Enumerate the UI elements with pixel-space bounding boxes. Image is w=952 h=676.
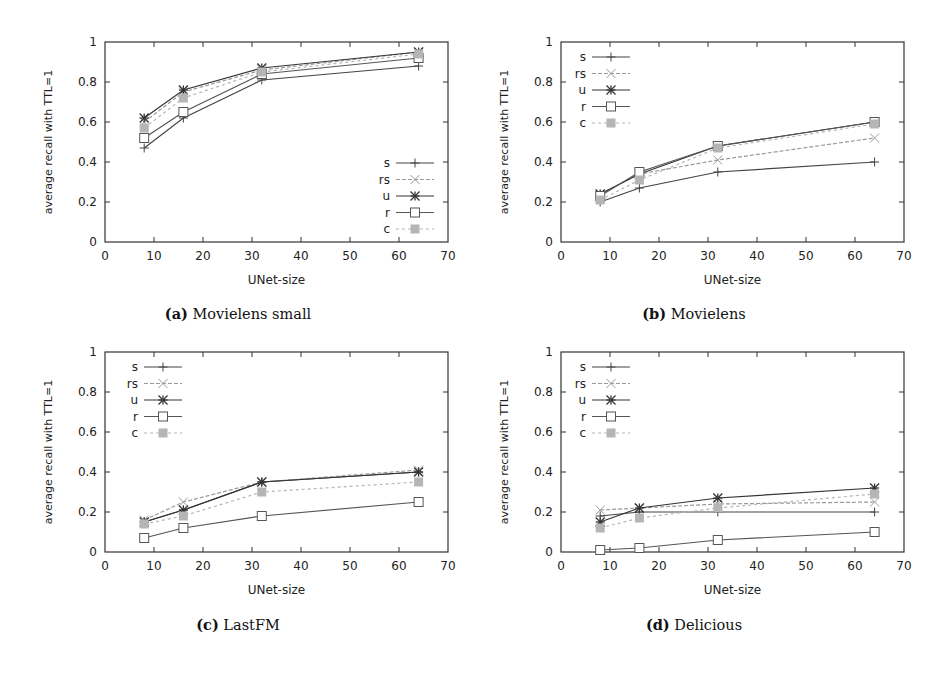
y-axis-label: average recall with TTL=1 — [42, 380, 55, 524]
x-tick-label: 30 — [244, 249, 259, 263]
x-tick-label: 30 — [244, 559, 259, 573]
legend: srsurc — [127, 360, 182, 440]
caption-tag-d: (d) — [646, 616, 670, 633]
x-tick-label: 60 — [391, 559, 406, 573]
y-tick-label: 0.4 — [534, 155, 553, 169]
x-tick-label: 10 — [602, 559, 617, 573]
chart-panel-a: 01020304050607000.20.40.60.81UNet-sizeav… — [0, 0, 476, 338]
x-tick-label: 70 — [896, 249, 911, 263]
legend-label-rs: rs — [575, 67, 586, 81]
legend-label-s: s — [580, 360, 586, 374]
x-tick-label: 10 — [146, 559, 161, 573]
x-axis-label: UNet-size — [704, 583, 761, 597]
y-tick-label: 1 — [545, 345, 553, 359]
y-tick-label: 0.6 — [534, 425, 553, 439]
y-axis-label: average recall with TTL=1 — [498, 380, 511, 524]
x-tick-label: 70 — [440, 559, 455, 573]
y-tick-label: 0.8 — [78, 385, 97, 399]
x-tick-label: 0 — [557, 559, 565, 573]
legend-label-r: r — [581, 100, 586, 114]
y-tick-label: 0 — [545, 545, 553, 559]
legend-label-r: r — [133, 410, 138, 424]
series-r — [596, 528, 879, 555]
caption-c: (c) LastFM — [0, 616, 476, 633]
y-tick-label: 0 — [545, 235, 553, 249]
y-tick-label: 0.2 — [534, 505, 553, 519]
x-tick-label: 40 — [749, 559, 764, 573]
series-c — [596, 120, 879, 205]
caption-d: (d) Delicious — [456, 616, 932, 633]
legend-label-s: s — [132, 360, 138, 374]
x-tick-label: 60 — [847, 559, 862, 573]
x-tick-label: 30 — [700, 249, 715, 263]
x-tick-label: 50 — [798, 249, 813, 263]
y-tick-label: 0.8 — [534, 75, 553, 89]
legend: srsurc — [575, 50, 630, 130]
chart-svg-a: 01020304050607000.20.40.60.81UNet-sizeav… — [0, 0, 476, 300]
series-c — [596, 490, 879, 533]
chart-panel-d: 01020304050607000.20.40.60.81UNet-sizeav… — [456, 310, 932, 648]
x-tick-label: 10 — [146, 249, 161, 263]
x-tick-label: 20 — [651, 559, 666, 573]
x-tick-label: 70 — [440, 249, 455, 263]
x-tick-label: 40 — [293, 559, 308, 573]
y-axis-label: average recall with TTL=1 — [42, 70, 55, 214]
caption-title-d: Delicious — [674, 617, 742, 633]
caption-tag-c: (c) — [196, 616, 219, 633]
chart-svg-d: 01020304050607000.20.40.60.81UNet-sizeav… — [456, 310, 932, 610]
legend-label-rs: rs — [127, 377, 138, 391]
x-tick-label: 30 — [700, 559, 715, 573]
chart-panel-c: 01020304050607000.20.40.60.81UNet-sizeav… — [0, 310, 476, 648]
x-tick-label: 0 — [557, 249, 565, 263]
chart-panel-b: 01020304050607000.20.40.60.81UNet-sizeav… — [456, 0, 932, 338]
y-tick-label: 1 — [89, 345, 97, 359]
legend: srsurc — [575, 360, 630, 440]
legend-label-r: r — [385, 206, 390, 220]
x-tick-label: 50 — [342, 249, 357, 263]
x-axis-label: UNet-size — [248, 273, 305, 287]
x-tick-label: 40 — [293, 249, 308, 263]
y-axis-label: average recall with TTL=1 — [498, 70, 511, 214]
legend: srsurc — [379, 156, 434, 236]
y-tick-label: 0.8 — [534, 385, 553, 399]
y-tick-label: 1 — [545, 35, 553, 49]
legend-label-c: c — [131, 426, 138, 440]
legend-label-u: u — [578, 393, 586, 407]
legend-label-u: u — [578, 83, 586, 97]
legend-label-s: s — [384, 156, 390, 170]
x-tick-label: 60 — [847, 249, 862, 263]
legend-label-r: r — [581, 410, 586, 424]
x-tick-label: 40 — [749, 249, 764, 263]
x-tick-label: 50 — [342, 559, 357, 573]
x-axis-label: UNet-size — [248, 583, 305, 597]
x-tick-label: 10 — [602, 249, 617, 263]
legend-label-c: c — [579, 116, 586, 130]
legend-label-rs: rs — [575, 377, 586, 391]
y-tick-label: 0.4 — [78, 465, 97, 479]
y-tick-label: 0.2 — [78, 505, 97, 519]
x-tick-label: 20 — [195, 559, 210, 573]
legend-label-u: u — [130, 393, 138, 407]
legend-label-s: s — [580, 50, 586, 64]
y-tick-label: 0.6 — [534, 115, 553, 129]
x-tick-label: 0 — [101, 249, 109, 263]
y-tick-label: 0.2 — [534, 195, 553, 209]
x-tick-label: 20 — [195, 249, 210, 263]
y-tick-label: 0 — [89, 545, 97, 559]
legend-label-rs: rs — [379, 173, 390, 187]
legend-label-u: u — [382, 189, 390, 203]
x-tick-label: 50 — [798, 559, 813, 573]
y-tick-label: 0.6 — [78, 115, 97, 129]
y-tick-label: 0.6 — [78, 425, 97, 439]
chart-svg-b: 01020304050607000.20.40.60.81UNet-sizeav… — [456, 0, 932, 300]
caption-title-c: LastFM — [223, 617, 279, 633]
y-tick-label: 0.8 — [78, 75, 97, 89]
x-tick-label: 20 — [651, 249, 666, 263]
x-tick-label: 60 — [391, 249, 406, 263]
x-axis-label: UNet-size — [704, 273, 761, 287]
y-tick-label: 0.2 — [78, 195, 97, 209]
chart-svg-c: 01020304050607000.20.40.60.81UNet-sizeav… — [0, 310, 476, 610]
x-tick-label: 0 — [101, 559, 109, 573]
x-tick-label: 70 — [896, 559, 911, 573]
legend-label-c: c — [579, 426, 586, 440]
